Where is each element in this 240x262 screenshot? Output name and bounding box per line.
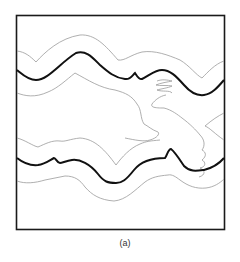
tangled-contour-d — [125, 124, 159, 141]
lower-thick-boundary — [17, 149, 224, 183]
figure-caption: (a) — [120, 238, 131, 248]
tangled-contour-a — [156, 80, 172, 93]
tangled-contour-c — [205, 113, 224, 140]
lower-upper-thin-contour — [17, 138, 160, 165]
figure-panel: (a) — [0, 0, 240, 262]
lower-lower-thin-contour — [17, 175, 224, 201]
upper-outer-thin-contour — [17, 35, 224, 78]
figure-frame — [17, 16, 225, 230]
upper-thick-boundary — [17, 52, 224, 95]
tangled-contour-b — [152, 95, 206, 177]
